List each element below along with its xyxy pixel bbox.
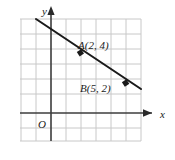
point-label-a: A(2, 4) xyxy=(77,39,109,52)
x-axis xyxy=(20,109,152,116)
x-axis-label: x xyxy=(159,108,165,120)
y-axis-arrow-icon xyxy=(47,6,54,15)
coordinate-plane-figure: A(2, 4) B(5, 2) y x O xyxy=(0,0,175,160)
x-axis-arrow-icon xyxy=(143,109,152,116)
y-axis-label: y xyxy=(41,5,47,17)
origin-label: O xyxy=(38,118,46,130)
point-label-b: B(5, 2) xyxy=(80,82,111,95)
